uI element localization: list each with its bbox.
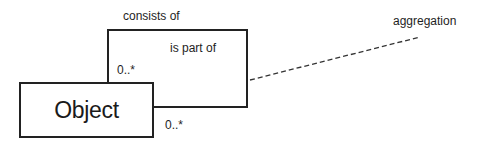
multiplicity-top: 0..* [117, 64, 135, 76]
object-class-name: Object [54, 97, 119, 124]
object-class-box: Object [19, 82, 154, 138]
uml-diagram: consists of is part of 0..* 0..* aggrega… [0, 0, 480, 148]
aggregation-annotation-label: aggregation [393, 15, 456, 27]
aggregation-annotation-dashed-line [250, 37, 420, 80]
multiplicity-right: 0..* [165, 119, 183, 131]
role-label-consists-of: consists of [123, 10, 180, 22]
role-label-is-part-of: is part of [170, 42, 216, 54]
